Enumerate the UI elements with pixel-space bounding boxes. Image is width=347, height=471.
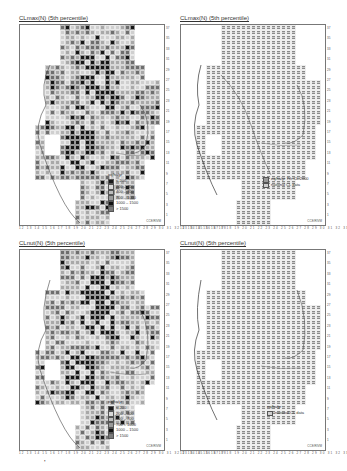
x-axis: 12 13 14 15 16 17 18 19 20 21 22 23 24 2… bbox=[180, 451, 347, 455]
map-title: CLmax(N) (5th percentile) bbox=[180, 15, 249, 22]
y-tick: 29 bbox=[327, 68, 330, 72]
map-panel-bottom-right: CLnut(N) (5th percentile) eq/ha/yr natio… bbox=[180, 249, 326, 459]
y-tick: 9 bbox=[327, 397, 329, 401]
legend: eq/ha/yr national CL data bbox=[267, 405, 304, 416]
y-tick: 15 bbox=[166, 365, 169, 369]
y-tick: 21 bbox=[327, 109, 330, 113]
y-tick: 23 bbox=[166, 99, 169, 103]
y-tick: 17 bbox=[327, 355, 330, 359]
y-tick: 15 bbox=[166, 140, 169, 144]
map-frame: eq/ha/yr < 200 200 – 400 400 – 700 700 –… bbox=[19, 249, 165, 451]
y-tick: 35 bbox=[327, 261, 330, 265]
y-tick: 29 bbox=[166, 68, 169, 72]
y-tick: 21 bbox=[166, 109, 169, 113]
credit: CCE/RIVM bbox=[307, 444, 322, 448]
y-tick: 31 bbox=[166, 282, 169, 286]
y-tick: 19 bbox=[327, 120, 330, 124]
y-tick: 3 bbox=[327, 203, 329, 207]
y-tick: 1 bbox=[327, 213, 329, 217]
y-tick: 11 bbox=[327, 386, 330, 390]
y-tick: 17 bbox=[327, 130, 330, 134]
y-tick: 5 bbox=[166, 192, 168, 196]
y-tick: 19 bbox=[327, 345, 330, 349]
y-tick: 27 bbox=[327, 78, 330, 82]
y-tick: 31 bbox=[166, 57, 169, 61]
y-tick: 5 bbox=[327, 192, 329, 196]
y-tick: 37 bbox=[327, 26, 330, 30]
y-tick: 7 bbox=[166, 407, 168, 411]
coastline bbox=[20, 25, 164, 225]
map-frame: eq/ha/yr 7th CL-2000 national CL data CC… bbox=[180, 24, 326, 226]
y-tick: 31 bbox=[327, 282, 330, 286]
y-tick: 37 bbox=[166, 26, 169, 30]
coastline bbox=[20, 250, 164, 450]
y-tick: 25 bbox=[166, 313, 169, 317]
y-tick: 3 bbox=[327, 428, 329, 432]
coastline bbox=[181, 250, 325, 450]
y-tick: 11 bbox=[166, 386, 169, 390]
y-tick: 37 bbox=[166, 251, 169, 255]
y-tick: 23 bbox=[327, 99, 330, 103]
y-tick: 13 bbox=[327, 151, 330, 155]
y-tick: 25 bbox=[166, 88, 169, 92]
y-tick: 35 bbox=[327, 36, 330, 40]
y-tick: 3 bbox=[166, 428, 168, 432]
coastline bbox=[181, 25, 325, 225]
y-tick: 11 bbox=[327, 161, 330, 165]
legend-item: > 1500 bbox=[108, 206, 138, 212]
y-tick: 25 bbox=[327, 88, 330, 92]
credit: CCE/RIVM bbox=[146, 219, 161, 223]
y-tick: 21 bbox=[166, 334, 169, 338]
y-tick: 13 bbox=[166, 151, 169, 155]
legend: eq/ha/yr 7th CL-2000 national CL data bbox=[263, 177, 309, 188]
legend: eq/ha/yr < 200 200 – 400 400 – 700 700 –… bbox=[108, 400, 138, 439]
y-tick: 5 bbox=[327, 417, 329, 421]
legend-item: national CL data bbox=[263, 183, 309, 189]
y-tick: 1 bbox=[327, 438, 329, 442]
y-tick: 13 bbox=[166, 376, 169, 380]
y-tick: 7 bbox=[327, 407, 329, 411]
legend-unit: eq/ha/yr bbox=[108, 400, 138, 405]
y-tick: 15 bbox=[327, 140, 330, 144]
y-tick: 35 bbox=[166, 36, 169, 40]
x-axis: 12 13 14 15 16 17 18 19 20 21 22 23 24 2… bbox=[180, 226, 347, 230]
y-tick: 15 bbox=[327, 365, 330, 369]
map-frame: eq/ha/yr national CL data CCE/RIVM bbox=[180, 249, 326, 451]
y-tick: 35 bbox=[166, 261, 169, 265]
y-tick: 5 bbox=[166, 417, 168, 421]
y-tick: 27 bbox=[166, 78, 169, 82]
y-tick: 9 bbox=[327, 172, 329, 176]
swatch bbox=[267, 411, 273, 417]
y-tick: 33 bbox=[166, 47, 169, 51]
legend-unit: eq/ha/yr bbox=[108, 173, 138, 178]
y-tick: 37 bbox=[327, 251, 330, 255]
y-tick: 27 bbox=[166, 303, 169, 307]
y-tick: 29 bbox=[166, 293, 169, 297]
y-tick: 33 bbox=[327, 272, 330, 276]
y-tick: 33 bbox=[327, 47, 330, 51]
map-title: CLnut(N) (5th percentile) bbox=[180, 240, 246, 247]
map-panel-top-right: CLmax(N) (5th percentile) eq/ha/yr 7th C… bbox=[180, 24, 326, 234]
legend-unit: eq/ha/yr bbox=[267, 405, 304, 410]
y-tick: 9 bbox=[166, 397, 168, 401]
legend-item: > 1500 bbox=[108, 433, 138, 439]
legend-item: national CL data bbox=[267, 411, 304, 417]
swatch bbox=[108, 206, 114, 212]
y-tick: 11 bbox=[166, 161, 169, 165]
swatch bbox=[108, 433, 114, 439]
y-tick: 19 bbox=[166, 120, 169, 124]
y-tick: 33 bbox=[166, 272, 169, 276]
y-tick: 17 bbox=[166, 130, 169, 134]
map-title: CLmax(N) (5th percentile) bbox=[19, 15, 88, 22]
y-tick: 1 bbox=[166, 438, 168, 442]
y-tick: 9 bbox=[166, 172, 168, 176]
y-tick: 19 bbox=[166, 345, 169, 349]
y-tick: 1 bbox=[166, 213, 168, 217]
map-frame: eq/ha/yr < 200 200 – 400 400 – 700 700 –… bbox=[19, 24, 165, 226]
credit: CCE/RIVM bbox=[307, 219, 322, 223]
y-tick: 7 bbox=[166, 182, 168, 186]
y-tick: 23 bbox=[166, 324, 169, 328]
y-tick: 17 bbox=[166, 355, 169, 359]
y-tick: 27 bbox=[327, 303, 330, 307]
y-tick: 29 bbox=[327, 293, 330, 297]
